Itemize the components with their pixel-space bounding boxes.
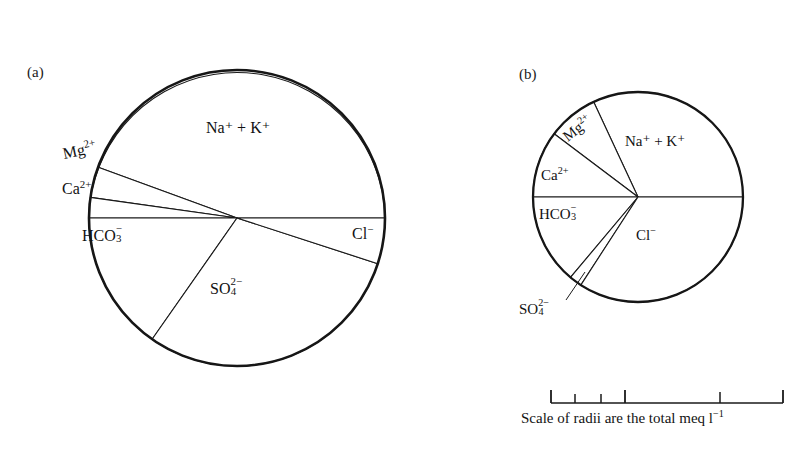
ion-label-a-chloride: Cl− [352, 226, 373, 242]
scale-bar-caption: Scale of radii are the total meq l−1 [521, 410, 724, 427]
ion-label-a-calcium: Ca2+ [62, 181, 91, 197]
ion-text-b-calcium: Ca [541, 167, 558, 183]
panel-label-b: (b) [519, 66, 537, 83]
ion-charge-b-chloride: − [650, 225, 656, 236]
ion-label-b-sulphate: SO 2− 4 [519, 302, 551, 317]
ion-text-b-sulphate: SO [519, 301, 538, 317]
ion-text-a-chloride: Cl [352, 225, 367, 242]
ion-charge-a-calcium: 2+ [80, 178, 92, 190]
ion-charge-b-calcium: 2+ [558, 165, 569, 176]
ion-label-b-calcium: Ca2+ [541, 168, 569, 183]
pie-chart-b [533, 92, 743, 302]
ion-subscript-b-sulphate: 4 [538, 307, 543, 317]
ion-subscript-b-bicarbonate: 3 [571, 212, 576, 222]
scale-bar [551, 390, 783, 403]
scale-bar-caption-text: Scale of radii are the total meq l [521, 410, 713, 426]
scale-bar-caption-exponent: −1 [713, 408, 724, 419]
ion-text-b-chloride: Cl [636, 227, 650, 243]
ion-charge-stack-b-sulphate: 2− 4 [538, 304, 551, 314]
ion-label-a-bicarbonate: HCO − 3 [82, 228, 127, 244]
ion-charge-stack-a-bicarbonate: − 3 [116, 230, 127, 241]
ion-charge-a-chloride: − [367, 223, 373, 235]
pie-chart-a [89, 70, 385, 366]
ion-subscript-a-sulphate: 4 [231, 286, 236, 297]
ion-text-a-sulphate: SO [210, 280, 230, 297]
ion-text-a-bicarbonate: HCO [82, 227, 116, 244]
panel-label-a: (a) [27, 64, 44, 81]
ion-charge-stack-a-sulphate: 2− 4 [230, 283, 244, 294]
ion-label-a-sodium-potassium: Na⁺ + K⁺ [206, 120, 270, 136]
ion-text-a-calcium: Ca [62, 180, 80, 197]
ion-label-b-sodium-potassium: Na⁺ + K⁺ [625, 134, 685, 149]
ion-charge-a-magnesium: 2+ [82, 136, 96, 150]
ion-subscript-a-bicarbonate: 3 [116, 233, 121, 244]
ion-charge-stack-b-bicarbonate: − 3 [571, 209, 582, 219]
figure-canvas: (a) (b) Na⁺ + K⁺ Mg2+ Ca2+ HCO − 3 SO 2−… [0, 0, 812, 449]
ion-text-b-bicarbonate: HCO [539, 206, 571, 222]
ion-label-b-bicarbonate: HCO − 3 [539, 207, 581, 222]
ion-label-a-sulphate: SO 2− 4 [210, 281, 244, 297]
ion-label-b-chloride: Cl− [636, 228, 656, 243]
